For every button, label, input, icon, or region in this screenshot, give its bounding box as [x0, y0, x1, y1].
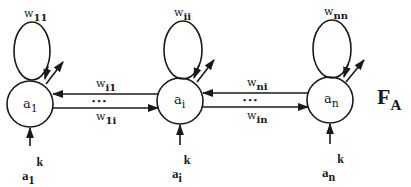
edge-label-w1i: w1i — [96, 110, 116, 126]
node-ai: ai wii aik — [157, 6, 214, 185]
edges-ai-an: wni • • • win — [203, 76, 308, 125]
self-loop-an — [313, 20, 351, 78]
edge-label-win: win — [247, 109, 268, 125]
neuron-label-an: an — [324, 91, 339, 110]
edge-label-wi1: wi1 — [96, 77, 116, 93]
input-label-ai: aik — [172, 153, 191, 185]
input-label-an: ank — [322, 152, 344, 184]
neuron-label-ai: ai — [174, 92, 186, 111]
self-weight-label-an: wnn — [324, 5, 349, 21]
node-a1: a1 w11 a1k — [7, 7, 63, 187]
self-loop-arrow-ai — [194, 65, 199, 78]
neuron-label-a1: a1 — [23, 96, 38, 115]
edges-a1-ai: wi1 • • • w1i — [53, 77, 158, 126]
node-an: an wnn ank — [307, 5, 364, 184]
self-weight-label-ai: wii — [174, 6, 191, 22]
input-label-a1: a1k — [22, 155, 44, 187]
self-weight-label-a1: w11 — [24, 7, 47, 23]
ellipsis-ai-an: • • • — [243, 95, 257, 105]
ellipsis-a1-ai: • • • — [92, 96, 106, 106]
fa-layer-diagram: a1 w11 a1k ai wii aik an — [0, 0, 411, 187]
self-loop-a1 — [14, 22, 50, 80]
layer-label-fa: FA — [377, 84, 401, 113]
edge-label-wni: wni — [247, 76, 268, 92]
